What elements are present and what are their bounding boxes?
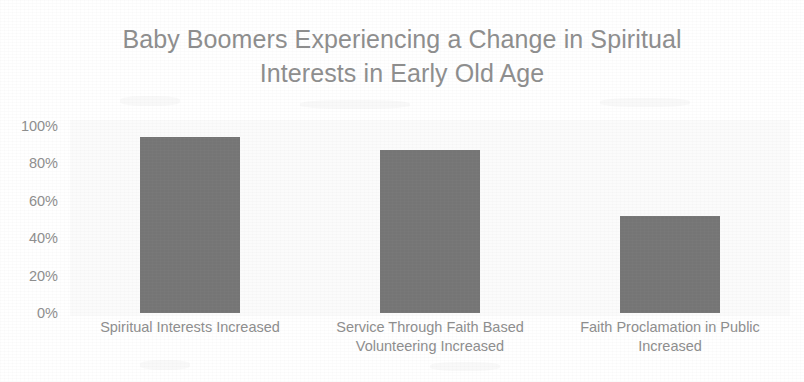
scan-artifact [300,100,410,109]
bars-layer [70,126,790,313]
x-tick-label-1-line-2: Volunteering Increased [310,337,550,356]
x-tick-label-0: Spiritual Interests Increased [70,318,310,337]
chart-title-line-2: Interests in Early Old Age [60,56,744,90]
bar-faith-proclamation-in-public-increased[interactable] [620,216,720,313]
y-tick-label-0: 0% [37,305,58,321]
x-tick-label-2: Faith Proclamation in Public Increased [550,318,790,356]
x-tick-label-2-line-2: Increased [550,337,790,356]
y-tick-label-20: 20% [29,268,58,284]
x-tick-label-1: Service Through Faith Based Volunteering… [310,318,550,356]
bar-group-2 [550,126,790,313]
plot-area [70,120,790,316]
x-tick-label-0-line-1: Spiritual Interests Increased [70,318,310,337]
y-tick-label-80: 80% [29,155,58,171]
bar-service-through-faith-based-volunteering-increased[interactable] [380,150,480,313]
scan-artifact [120,96,180,106]
y-tick-label-40: 40% [29,230,58,246]
x-tick-label-1-line-1: Service Through Faith Based [310,318,550,337]
bar-spiritual-interests-increased[interactable] [140,137,240,313]
chart-title: Baby Boomers Experiencing a Change in Sp… [60,22,744,90]
x-tick-label-2-line-1: Faith Proclamation in Public [550,318,790,337]
bar-group-1 [310,126,550,313]
bar-group-0 [70,126,310,313]
chart-title-line-1: Baby Boomers Experiencing a Change in Sp… [60,22,744,56]
bar-chart: Baby Boomers Experiencing a Change in Sp… [0,0,804,382]
x-axis-category-labels: Spiritual Interests Increased Service Th… [70,318,790,378]
scan-artifact [600,98,690,107]
y-tick-label-60: 60% [29,193,58,209]
plot-inner [70,126,790,313]
y-tick-label-100: 100% [21,118,58,134]
y-axis: 100% 80% 60% 40% 20% 0% [0,120,64,316]
